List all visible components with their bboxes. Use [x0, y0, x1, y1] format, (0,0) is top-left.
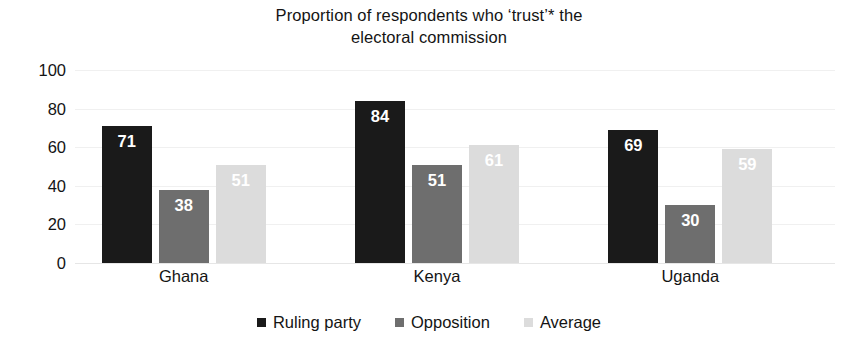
legend-item-ruling-party[interactable]: Ruling party: [257, 312, 361, 332]
y-axis-tick-labels: 020406080100: [0, 70, 66, 263]
bar-uganda-ruling-party: 69: [608, 130, 658, 263]
bar-value-label: 51: [412, 171, 462, 189]
legend-swatch-opposition: [395, 318, 404, 327]
legend-label: Opposition: [411, 312, 490, 332]
plot-area: 713851845161693059: [75, 70, 835, 263]
bar-uganda-average: 59: [722, 149, 772, 263]
bar-kenya-opposition: 51: [412, 165, 462, 263]
y-tick-label-100: 100: [38, 61, 66, 79]
legend-label: Ruling party: [273, 312, 361, 332]
bar-value-label: 71: [102, 132, 152, 150]
bar-value-label: 69: [608, 136, 658, 154]
bar-kenya-ruling-party: 84: [355, 101, 405, 263]
y-tick-label-0: 0: [57, 254, 66, 272]
gridline-0: [75, 263, 835, 264]
bar-value-label: 61: [469, 151, 519, 169]
category-label-kenya: Kenya: [414, 266, 461, 286]
chart-title: Proportion of respondents who ‘trust’* t…: [0, 4, 858, 48]
category-label-uganda: Uganda: [661, 266, 719, 286]
gridline-80: [75, 109, 835, 110]
bar-value-label: 59: [722, 155, 772, 173]
gridline-60: [75, 147, 835, 148]
legend-swatch-average: [524, 318, 533, 327]
y-tick-label-20: 20: [48, 215, 66, 233]
bar-uganda-opposition: 30: [665, 205, 715, 263]
bar-value-label: 51: [216, 171, 266, 189]
legend-label: Average: [540, 312, 601, 332]
bar-value-label: 84: [355, 107, 405, 125]
bar-value-label: 38: [159, 196, 209, 214]
x-axis-category-labels: GhanaKenyaUganda: [75, 266, 835, 290]
category-label-ghana: Ghana: [159, 266, 209, 286]
bar-ghana-opposition: 38: [159, 190, 209, 263]
gridline-100: [75, 70, 835, 71]
legend-item-average[interactable]: Average: [524, 312, 601, 332]
bar-chart: Proportion of respondents who ‘trust’* t…: [0, 0, 858, 346]
y-tick-label-60: 60: [48, 138, 66, 156]
legend-swatch-ruling-party: [257, 318, 266, 327]
legend-item-opposition[interactable]: Opposition: [395, 312, 490, 332]
bar-ghana-average: 51: [216, 165, 266, 263]
y-tick-label-80: 80: [48, 100, 66, 118]
bar-value-label: 30: [665, 211, 715, 229]
bar-ghana-ruling-party: 71: [102, 126, 152, 263]
bar-kenya-average: 61: [469, 145, 519, 263]
chart-legend: Ruling partyOppositionAverage: [0, 312, 858, 332]
y-tick-label-40: 40: [48, 177, 66, 195]
